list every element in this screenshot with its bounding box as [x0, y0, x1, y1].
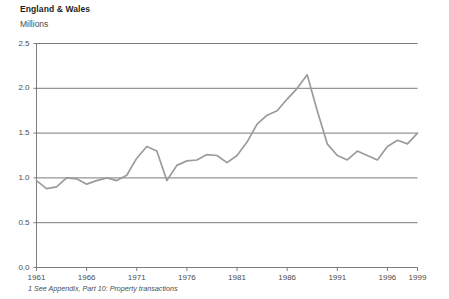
- y-axis-tick-label: 0.0: [6, 263, 30, 272]
- x-axis-tick-label: 1971: [128, 273, 146, 282]
- x-axis-tick-label: 1976: [178, 273, 196, 282]
- x-axis-tick-label: 1996: [379, 273, 397, 282]
- y-axis-tick-label: 0.5: [6, 218, 30, 227]
- x-axis-tick-label: 1991: [328, 273, 346, 282]
- chart-figure: England & Wales Millions 0.00.51.01.52.0…: [0, 0, 449, 299]
- x-axis-tick-label: 1981: [228, 273, 246, 282]
- data-series-line: [37, 75, 418, 189]
- chart-footnote: 1 See Appendix, Part 10: Property transa…: [28, 284, 178, 293]
- x-axis-tick-label: 1986: [278, 273, 296, 282]
- x-axis-tick-label: 1999: [409, 273, 427, 282]
- y-axis-tick-label: 2.0: [6, 83, 30, 92]
- chart-plot-area: [0, 0, 449, 299]
- x-axis-tick-label: 1961: [28, 273, 46, 282]
- x-axis-tick-label: 1966: [78, 273, 96, 282]
- y-axis-tick-label: 2.5: [6, 39, 30, 48]
- y-axis-tick-label: 1.0: [6, 173, 30, 182]
- y-axis-tick-label: 1.5: [6, 128, 30, 137]
